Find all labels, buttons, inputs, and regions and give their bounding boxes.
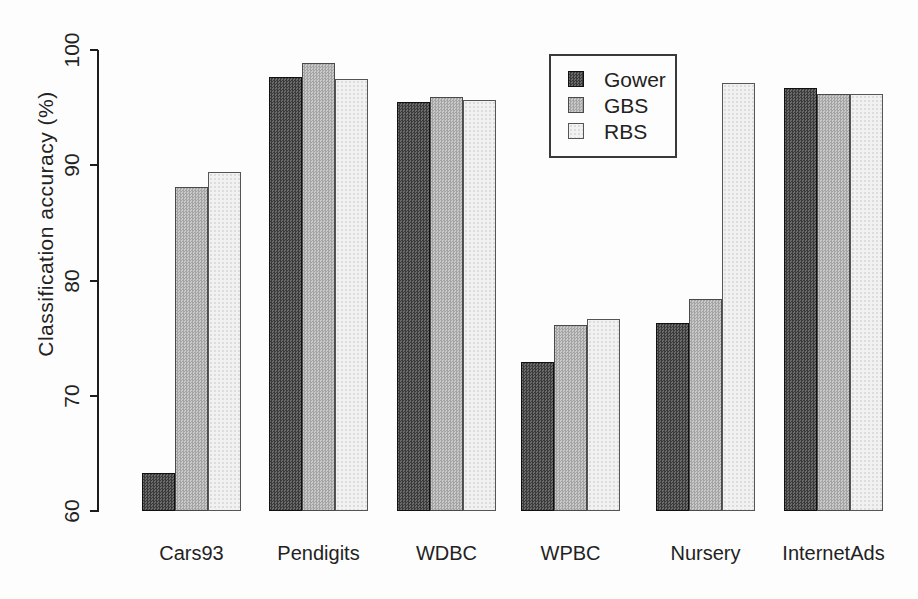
bar-nursery-gbs [689,299,722,511]
legend-swatch-gbs [568,97,584,113]
y-tick-70 [90,395,98,397]
x-axis-label-wpbc: WPBC [541,543,601,563]
y-tick-label-60: 60 [61,499,82,522]
x-axis-label-cars93: Cars93 [159,543,223,563]
bar-wpbc-gbs [554,325,587,511]
bar-pendigits-gbs [302,63,335,511]
bar-wpbc-rbs [587,319,620,511]
y-tick-90 [90,164,98,166]
legend-label-gower: Gower [604,69,666,90]
legend-swatch-rbs [568,123,584,139]
bar-cars93-gbs [175,187,208,511]
x-axis-label-internetads: InternetAds [782,543,884,563]
bar-chart-figure: Classification accuracy (%) Gower GBS RB… [0,0,918,599]
bar-internetads-rbs [850,94,883,511]
bar-cars93-rbs [208,172,241,511]
bar-wdbc-rbs [463,100,496,511]
bar-internetads-gower [784,88,817,511]
bar-pendigits-rbs [335,79,368,511]
legend-label-gbs: GBS [604,95,648,116]
x-axis-label-nursery: Nursery [670,543,740,563]
legend-swatch-gower [568,71,584,87]
bar-nursery-rbs [722,83,755,511]
y-tick-label-100: 100 [61,32,82,67]
x-axis-label-pendigits: Pendigits [277,543,359,563]
y-tick-label-70: 70 [61,384,82,407]
y-tick-100 [90,49,98,51]
x-axis-label-wdbc: WDBC [416,543,477,563]
bar-cars93-gower [142,473,175,511]
bar-internetads-gbs [817,94,850,511]
legend-item-rbs: RBS [568,123,675,139]
bar-pendigits-gower [269,77,302,511]
bar-wdbc-gbs [430,97,463,511]
legend: Gower GBS RBS [549,54,677,158]
y-axis-title: Classification accuracy (%) [34,91,58,357]
bar-wpbc-gower [521,362,554,511]
legend-item-gbs: GBS [568,97,675,113]
y-tick-label-80: 80 [61,269,82,292]
y-tick-80 [90,280,98,282]
bar-nursery-gower [656,323,689,511]
legend-label-rbs: RBS [604,121,647,142]
bar-wdbc-gower [397,102,430,511]
y-tick-60 [90,510,98,512]
legend-item-gower: Gower [568,71,675,87]
y-tick-label-90: 90 [61,153,82,176]
